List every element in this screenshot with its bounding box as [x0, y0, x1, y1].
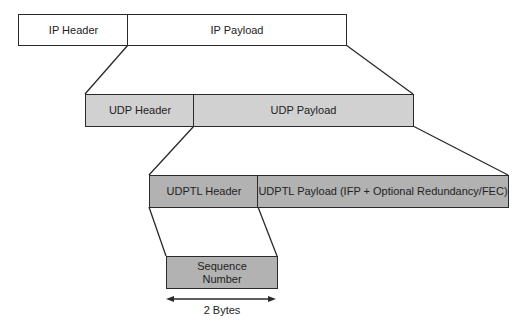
ip-payload-label: IP Payload [210, 24, 263, 37]
sequence-number-box: Sequence Number [166, 256, 278, 289]
udptl-header-label: UDPTL Header [167, 185, 242, 198]
udp-payload: UDP Payload [193, 94, 414, 127]
ip-header-label: IP Header [49, 24, 98, 37]
udp-header-label: UDP Header [109, 104, 171, 117]
ip-header: IP Header [18, 14, 129, 46]
udp-header: UDP Header [85, 94, 195, 127]
sequence-line1: Sequence [197, 260, 247, 273]
dimension-label: 2 Bytes [166, 304, 278, 316]
udptl-payload: UDPTL Payload (IFP + Optional Redundancy… [257, 175, 509, 208]
udptl-header: UDPTL Header [149, 175, 259, 208]
sequence-line2: Number [202, 273, 241, 286]
udp-payload-label: UDP Payload [271, 104, 337, 117]
udptl-payload-label: UDPTL Payload (IFP + Optional Redundancy… [258, 185, 507, 198]
ip-payload: IP Payload [127, 14, 347, 46]
